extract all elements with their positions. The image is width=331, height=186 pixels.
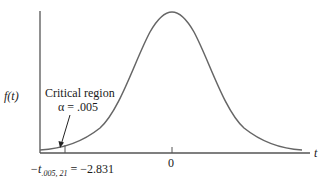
critical-region-label: Critical region (45, 87, 115, 99)
critical-value-suffix: = −2.831 (67, 162, 114, 176)
x-axis-label: t (314, 147, 317, 159)
critical-value-prefix: −t (30, 162, 41, 176)
alpha-label: α = .005 (58, 101, 98, 113)
y-axis-label-text: f(t) (4, 89, 19, 103)
critical-region-arrow (61, 115, 70, 145)
critical-value-subscript: .005, 21 (41, 169, 67, 178)
critical-value-label: −t.005, 21 = −2.831 (30, 163, 114, 178)
zero-tick-label: 0 (168, 157, 174, 169)
density-curve (40, 12, 302, 150)
y-axis-label: f(t) (4, 90, 19, 102)
